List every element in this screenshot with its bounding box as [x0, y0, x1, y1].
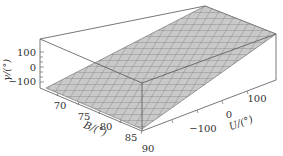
y-tick-0: 0 [226, 109, 232, 120]
x-tick-90: 90 [142, 143, 155, 154]
z-tick-0: 0 [30, 62, 36, 73]
z-tick-neg100: −100 [9, 76, 36, 87]
x-tick-85: 85 [125, 132, 138, 143]
z-tick-100: 100 [17, 47, 36, 58]
z-axis-title: γ/(°) [1, 59, 12, 81]
y-tick-100: 100 [247, 93, 266, 104]
y-tick-neg100: −100 [189, 123, 216, 134]
z-axis [40, 52, 44, 82]
surface-plot: 100 0 −100 γ/(°) 70 75 80 85 90 B/(°) −1… [0, 0, 283, 156]
x-tick-70: 70 [54, 100, 67, 111]
